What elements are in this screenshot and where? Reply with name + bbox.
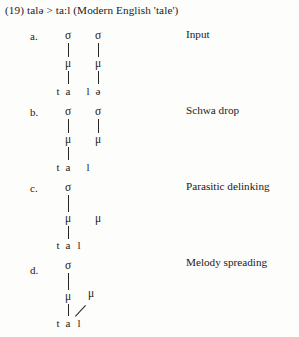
item-letter-c: c. (30, 182, 38, 194)
association-line-b-sigma2-mu2 (98, 119, 99, 133)
association-line-a-sigma1-mu1 (68, 43, 69, 57)
segment-b-l: l (82, 162, 94, 173)
spreading-line-d-seg-mu2 (75, 305, 86, 317)
mora-node-c2-floating: μ (92, 213, 104, 225)
mora-node-b2: μ (92, 134, 104, 146)
association-line-d-mu1-seg (68, 304, 69, 316)
example-header: (19) talə > ta:l (Modern English 'tale') (5, 4, 178, 16)
association-line-d-sigma1-mu1 (68, 273, 69, 290)
association-line-a-mu2-seg (98, 71, 99, 84)
process-label-parasitic-delinking: Parasitic delinking (186, 180, 270, 192)
association-line-b-sigma1-mu1 (68, 119, 69, 133)
mora-node-b1: μ (62, 134, 74, 146)
syllable-node-a2: σ (92, 30, 104, 42)
association-line-c-mu1-seg (68, 226, 69, 239)
syllable-node-d1: σ (62, 260, 74, 272)
process-label-melody-spreading: Melody spreading (186, 256, 267, 268)
mora-node-a2: μ (92, 58, 104, 70)
association-line-b-mu1-seg (68, 147, 69, 160)
mora-node-c1: μ (62, 213, 74, 225)
association-line-a-mu1-seg (68, 71, 69, 84)
mora-node-d1: μ (62, 291, 74, 303)
syllable-node-b2: σ (92, 106, 104, 118)
segment-d-l: l (73, 318, 85, 329)
association-line-a-sigma2-mu2 (98, 43, 99, 57)
syllable-node-a1: σ (62, 30, 74, 42)
segment-a-schwa: ə (92, 86, 104, 97)
process-label-input: Input (186, 28, 210, 40)
syllable-node-b1: σ (62, 106, 74, 118)
process-label-schwa-drop: Schwa drop (186, 104, 239, 116)
mora-node-d2: μ (85, 288, 97, 300)
item-letter-a: a. (30, 30, 38, 42)
segment-b-a: a (62, 162, 74, 173)
syllable-node-c1: σ (62, 182, 74, 194)
item-letter-b: b. (30, 106, 38, 118)
segment-c-l: l (73, 240, 85, 251)
diagram-page: (19) talə > ta:l (Modern English 'tale')… (0, 0, 299, 337)
mora-node-a1: μ (62, 58, 74, 70)
segment-a-a: a (62, 86, 74, 97)
item-letter-d: d. (30, 264, 38, 276)
association-line-c-sigma1-mu1 (68, 195, 69, 212)
